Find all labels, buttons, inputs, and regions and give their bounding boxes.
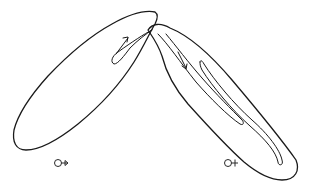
- diagram-canvas: [0, 0, 310, 188]
- right-organism-duct-inner: [200, 61, 282, 165]
- right-organism-outline: [148, 24, 297, 180]
- female-symbol-icon: [225, 160, 239, 167]
- left-organism-outline: [14, 12, 158, 151]
- male-symbol-icon: [55, 160, 69, 167]
- left-organism-duct: [112, 30, 152, 64]
